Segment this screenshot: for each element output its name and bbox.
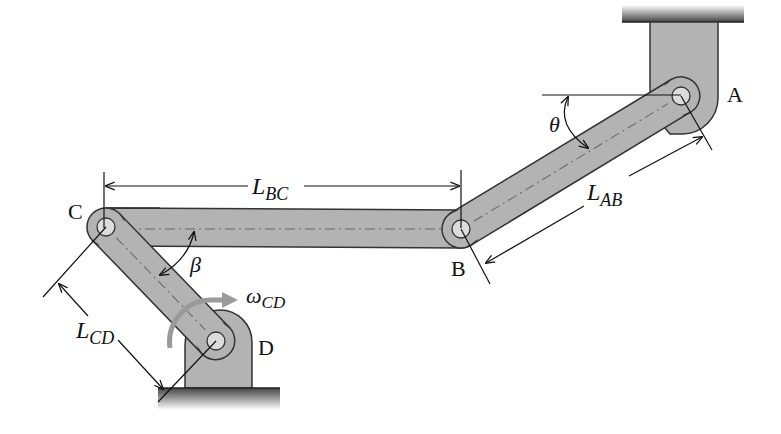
label-theta: θ (549, 112, 560, 137)
label-lcd: LCD (75, 317, 114, 348)
label-c: C (68, 199, 83, 224)
link-ab (435, 70, 707, 255)
label-omega: ωCD (246, 283, 286, 312)
label-d: D (258, 335, 274, 360)
link-bc (106, 208, 480, 248)
label-b: B (451, 256, 466, 281)
label-a: A (727, 82, 743, 107)
label-beta: β (189, 252, 201, 277)
label-lab: LAB (586, 179, 622, 210)
label-lbc: LBC (251, 173, 289, 204)
linkage-diagram: A B C D θ β LBC LAB LCD ωCD (0, 0, 781, 434)
